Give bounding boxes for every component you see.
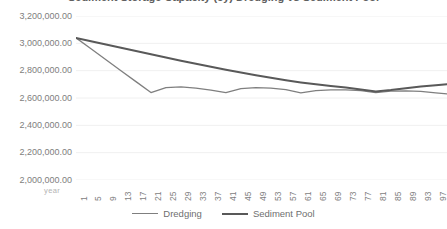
x-axis-labels: 1591317212529333741454953576165697377818… <box>76 181 447 203</box>
x-axis-tick-label: 45 <box>244 192 253 201</box>
x-axis-tick-label: 93 <box>424 192 433 201</box>
x-axis-title: year <box>44 186 60 195</box>
legend-item-dredging[interactable]: Dredging <box>132 208 202 219</box>
x-axis-tick-label: 57 <box>289 192 298 201</box>
x-axis-tick-label: 41 <box>229 192 238 201</box>
x-axis-tick-label: 61 <box>304 192 313 201</box>
x-axis-tick-label: 13 <box>124 192 133 201</box>
x-axis-tick-label: 97 <box>439 192 447 201</box>
chart-legend: DredgingSediment Pool <box>0 208 447 219</box>
x-axis-tick-label: 81 <box>379 192 388 201</box>
x-axis-tick-label: 25 <box>169 192 178 201</box>
y-axis-tick-label: 2,600,000.00 <box>2 94 72 103</box>
x-axis-tick-label: 21 <box>154 192 163 201</box>
x-axis-tick-label: 73 <box>349 192 358 201</box>
legend-label: Dredging <box>163 208 202 219</box>
y-axis-tick-label: 3,200,000.00 <box>2 12 72 21</box>
y-axis-tick-label: 3,000,000.00 <box>2 39 72 48</box>
chart-container: Sediment Storage Capacity (cy) Dredging … <box>0 0 447 229</box>
x-axis-tick-label: 1 <box>80 196 89 201</box>
x-axis-tick-label: 33 <box>199 192 208 201</box>
gridlines <box>76 16 447 180</box>
x-axis-tick-label: 37 <box>214 192 223 201</box>
x-axis-tick-label: 49 <box>259 192 268 201</box>
legend-label: Sediment Pool <box>253 208 315 219</box>
x-axis-tick-label: 29 <box>184 192 193 201</box>
y-axis-labels: 3,200,000.003,000,000.002,800,000.002,60… <box>0 0 72 229</box>
x-axis-tick-label: 69 <box>334 192 343 201</box>
series-lines <box>76 38 447 94</box>
y-axis-tick-label: 2,200,000.00 <box>2 148 72 157</box>
legend-item-sediment-pool[interactable]: Sediment Pool <box>222 208 315 219</box>
series-line-dredging <box>76 38 447 94</box>
x-axis-tick-label: 65 <box>319 192 328 201</box>
x-axis-tick-label: 53 <box>274 192 283 201</box>
legend-swatch-icon <box>222 213 248 215</box>
x-axis-tick-label: 5 <box>94 196 103 201</box>
y-axis-tick-label: 2,000,000.00 <box>2 176 72 185</box>
y-axis-tick-label: 2,800,000.00 <box>2 66 72 75</box>
x-axis-tick-label: 17 <box>139 192 148 201</box>
legend-swatch-icon <box>132 213 158 214</box>
x-axis-tick-label: 77 <box>364 192 373 201</box>
y-axis-tick-label: 2,400,000.00 <box>2 121 72 130</box>
plot-area <box>76 16 447 180</box>
x-axis-tick-label: 85 <box>394 192 403 201</box>
chart-plot-svg <box>76 16 447 180</box>
x-axis-tick-label: 9 <box>109 196 118 201</box>
x-axis-tick-label: 89 <box>409 192 418 201</box>
series-line-sediment-pool <box>76 38 447 92</box>
